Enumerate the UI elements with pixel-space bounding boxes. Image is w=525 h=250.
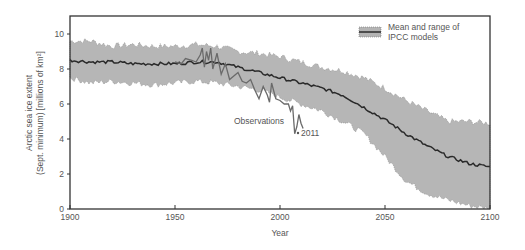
sea-ice-chart: 19001950200020502100 0246810 Year Arctic… xyxy=(0,0,525,250)
x-axis-label: Year xyxy=(271,228,288,238)
y-tick-label: 2 xyxy=(59,169,64,179)
x-tick-label: 2000 xyxy=(271,212,290,222)
x-tick-label: 2050 xyxy=(376,212,395,222)
legend: Mean and range of IPCC models xyxy=(359,22,460,42)
legend-label-line1: Mean and range of xyxy=(388,22,460,32)
y-axis-ticks: 0246810 xyxy=(55,29,70,214)
svg-text:(Sept. minimum) [millions of k: (Sept. minimum) [millions of km²] xyxy=(35,51,45,175)
x-axis-ticks: 19001950200020502100 xyxy=(61,205,500,222)
y-tick-label: 0 xyxy=(59,204,64,214)
svg-text:Arctic sea ice extent: Arctic sea ice extent xyxy=(24,74,34,151)
y-tick-label: 4 xyxy=(59,134,64,144)
x-tick-label: 2100 xyxy=(481,212,500,222)
annotation-2011-dot xyxy=(297,132,299,134)
y-tick-label: 6 xyxy=(59,99,64,109)
y-tick-label: 8 xyxy=(59,64,64,74)
annotation-2011: 2011 xyxy=(301,128,320,138)
y-axis-label: Arctic sea ice extent (Sept. minimum) [m… xyxy=(24,51,45,175)
annotation-observations: Observations xyxy=(234,116,284,126)
y-tick-label: 10 xyxy=(55,29,65,39)
legend-label-line2: IPCC models xyxy=(388,32,438,42)
x-tick-label: 1950 xyxy=(166,212,185,222)
